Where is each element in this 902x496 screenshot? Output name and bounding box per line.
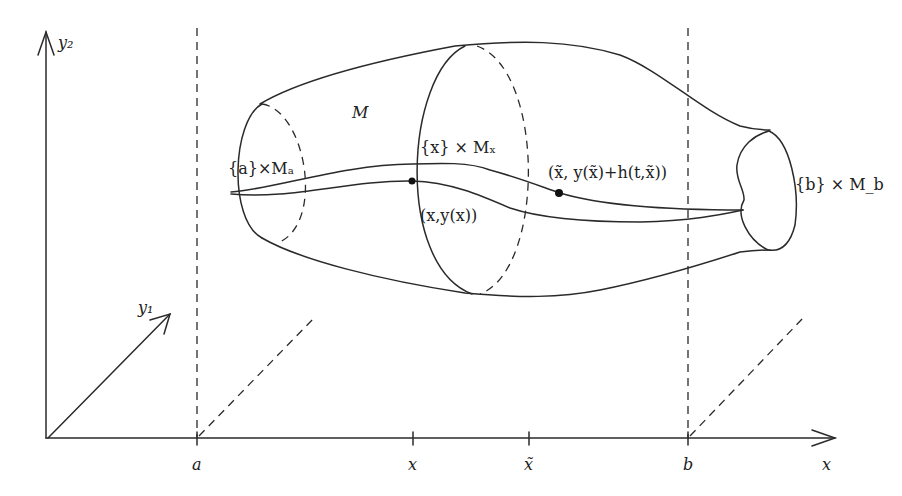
fiber-x-back <box>477 46 528 294</box>
manifold-label: M <box>351 103 369 122</box>
point-perturbed-label: (x̃, y(x̃)+h(t,x̃)) <box>548 163 667 182</box>
point-xtilde-perturbed <box>555 189 563 197</box>
tick-label-b: b <box>683 455 693 474</box>
fiber-a-label: {a}×Mₐ <box>228 159 294 178</box>
y1-axis <box>48 314 170 438</box>
fiber-x-label: {x} × Mₓ <box>420 138 496 157</box>
x-axis-label: x <box>822 455 831 474</box>
x-axis <box>46 430 835 446</box>
tick-label-xtilde: x̃ <box>524 455 533 474</box>
manifold-bottom-edge <box>262 238 770 296</box>
point-curve-label: (x,y(x)) <box>420 206 477 225</box>
diagonal-dashed-a <box>199 316 316 436</box>
diagram-canvas: y₂ x y₁ a x x̃ b M {a}×Mₐ {x} × Mₓ {b} ×… <box>0 0 902 496</box>
y2-axis-label: y₂ <box>57 33 73 52</box>
fiber-b-label: {b} × M_b <box>795 175 884 194</box>
y1-axis-label: y₁ <box>137 298 153 317</box>
tick-label-a: a <box>192 455 202 474</box>
curve-y <box>231 181 743 222</box>
fiber-b <box>737 131 797 250</box>
diagonal-dashed-b <box>690 316 805 436</box>
point-x-y <box>409 178 416 185</box>
tick-label-x: x <box>408 455 417 474</box>
fiber-x-front <box>417 46 472 294</box>
y2-axis <box>38 32 54 438</box>
manifold-top-edge <box>260 42 770 130</box>
